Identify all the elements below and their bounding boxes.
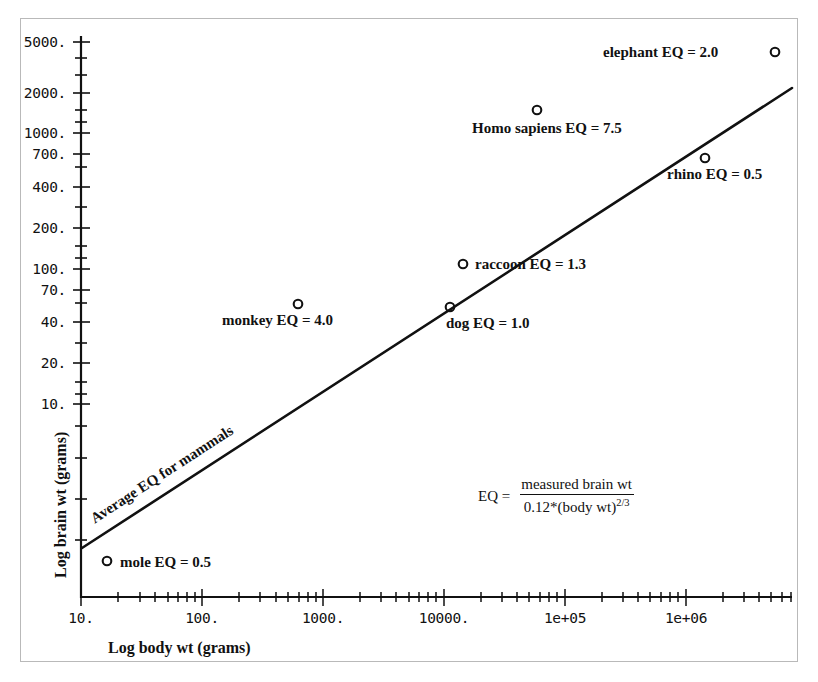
marker-elephant <box>771 48 780 57</box>
x-tick-label: 1000. <box>302 610 344 626</box>
y-tick-label: 700. <box>0 146 66 162</box>
x-tick-label: 10000. <box>419 610 470 626</box>
point-label-monkey: monkey EQ = 4.0 <box>222 312 333 329</box>
x-tick-label: 100. <box>185 610 219 626</box>
marker-raccoon <box>459 260 468 269</box>
y-tick-label: 40. <box>0 314 66 330</box>
y-tick-label: 400. <box>0 179 66 195</box>
marker-mole <box>103 557 112 566</box>
point-label-elephant: elephant EQ = 2.0 <box>603 44 718 61</box>
formula-fraction: measured brain wt 0.12*(body wt)2/3 <box>517 476 636 516</box>
point-label-dog: dog EQ = 1.0 <box>446 315 530 332</box>
point-label-mole: mole EQ = 0.5 <box>120 554 211 571</box>
point-label-homo-sapiens: Homo sapiens EQ = 7.5 <box>472 120 622 137</box>
y-tick-label: 20. <box>0 355 66 371</box>
marker-rhino <box>701 154 710 163</box>
x-tick-label: 1e+06 <box>665 610 707 626</box>
formula-denominator-base: 0.12*(body wt) <box>524 499 617 515</box>
y-tick-label: 5000. <box>0 34 66 50</box>
data-point-markers <box>103 48 780 566</box>
y-axis-title: Log brain wt (grams) <box>52 432 70 578</box>
y-tick-label: 100. <box>0 261 66 277</box>
x-axis-title: Log body wt (grams) <box>108 639 251 657</box>
y-tick-label: 70. <box>0 282 66 298</box>
y-tick-label: 200. <box>0 220 66 236</box>
formula-numerator: measured brain wt <box>517 476 636 494</box>
point-label-raccoon: raccoon EQ = 1.3 <box>475 256 586 273</box>
marker-homo-sapiens <box>533 106 542 115</box>
figure-eq-scatter-chart: 5000. 2000. 1000. 700. 400. 200. 100. 70… <box>0 0 818 682</box>
x-tick-label: 1e+05 <box>544 610 586 626</box>
y-tick-label: 2000. <box>0 85 66 101</box>
plot-canvas <box>0 0 818 682</box>
point-label-rhino: rhino EQ = 0.5 <box>667 166 762 183</box>
y-tick-label: 1000. <box>0 125 66 141</box>
marker-monkey <box>294 300 303 309</box>
formula-lhs: EQ = <box>478 488 510 505</box>
formula-denominator-exponent: 2/3 <box>616 497 629 508</box>
x-tick-label: 10. <box>68 610 93 626</box>
trend-line-average-eq <box>82 88 792 548</box>
x-axis-group <box>81 589 792 606</box>
formula-denominator: 0.12*(body wt)2/3 <box>520 494 634 516</box>
y-tick-label: 10. <box>0 396 66 412</box>
eq-formula-annotation: EQ = measured brain wt 0.12*(body wt)2/3 <box>478 476 636 516</box>
